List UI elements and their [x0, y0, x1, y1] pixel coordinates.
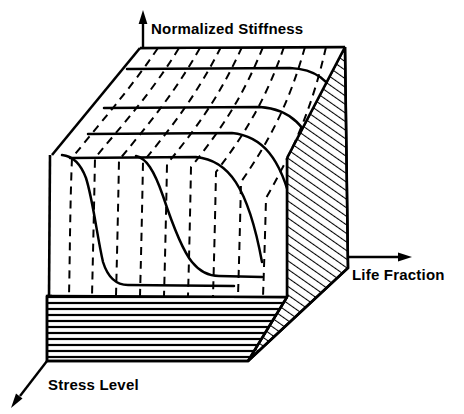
figure-canvas: Normalized Stiffness Life Fraction Stres… [0, 0, 464, 414]
front-face-hatched [47, 296, 287, 361]
life-fraction-axis [348, 253, 412, 262]
normalized-stiffness-label: Normalized Stiffness [151, 20, 303, 37]
life-fraction-label: Life Fraction [352, 266, 445, 283]
front-base-slab [47, 296, 287, 361]
stress-level-label: Stress Level [48, 376, 139, 393]
up-arrow-icon [139, 10, 148, 24]
vertical-axis [139, 10, 148, 52]
outline-back-ridge [140, 47, 345, 48]
right-arrow-icon [398, 253, 412, 262]
stiffness-surface-figure: Normalized Stiffness Life Fraction Stres… [0, 0, 464, 414]
outline-left-vertical [49, 155, 50, 296]
outline-front-bottom [47, 296, 287, 297]
stress-level-axis-line [20, 361, 47, 396]
stress-level-axis [11, 361, 47, 408]
